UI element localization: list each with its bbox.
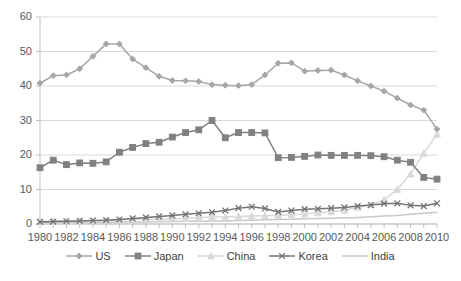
legend-item-label: Korea [298,251,327,262]
x-axis-tick-label: 2010 [422,232,452,243]
y-axis-tick-label: 60 [10,11,32,22]
legend-item-india[interactable]: India [342,250,395,262]
line-marker-icon [342,250,368,262]
cross-marker-icon [269,250,295,262]
gridlines [40,17,437,224]
y-axis-tick-label: 0 [10,218,32,229]
y-axis-tick-label: 10 [10,184,32,195]
y-axis-tick-label: 50 [10,46,32,57]
chart-legend: USJapanChinaKoreaIndia [0,250,461,262]
diamond-marker-icon [66,250,92,262]
series-japan [37,118,440,182]
series-china [37,131,441,224]
chart-container: 6050403020100 19801982198419861988199019… [0,0,461,281]
y-axis-tick-label: 40 [10,80,32,91]
y-axis-tick-label: 30 [10,115,32,126]
legend-item-label: China [227,251,256,262]
legend-item-us[interactable]: US [66,250,110,262]
legend-item-china[interactable]: China [198,250,256,262]
triangle-marker-icon [198,250,224,262]
series-us [37,41,440,132]
legend-item-label: India [371,251,395,262]
legend-item-korea[interactable]: Korea [269,250,327,262]
x-axis-ticks [40,224,437,228]
legend-item-label: US [95,251,110,262]
legend-item-label: Japan [154,251,184,262]
y-axis-tick-label: 20 [10,149,32,160]
square-marker-icon [125,250,151,262]
y-axis-ticks [36,17,40,224]
legend-item-japan[interactable]: Japan [125,250,184,262]
